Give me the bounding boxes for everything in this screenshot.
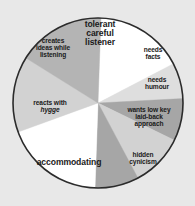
pie-chart-figure: tolerant careful listener needs facts ne…	[0, 0, 195, 206]
pie-slices	[13, 18, 183, 188]
pie-chart-svg	[0, 0, 195, 206]
